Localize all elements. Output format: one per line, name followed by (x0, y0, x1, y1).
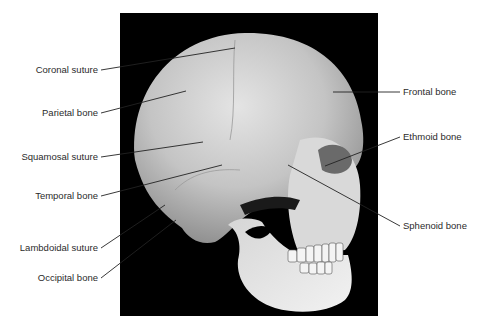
label-lambdoidal-suture: Lambdoidal suture (20, 242, 98, 253)
label-sphenoid-bone: Sphenoid bone (403, 220, 467, 231)
label-parietal-bone: Parietal bone (42, 107, 98, 118)
label-ethmoid-bone: Ethmoid bone (403, 131, 462, 142)
label-temporal-bone: Temporal bone (35, 190, 98, 201)
label-occipital-bone: Occipital bone (38, 272, 98, 283)
label-squamosal-suture: Squamosal suture (21, 151, 98, 162)
label-coronal-suture: Coronal suture (36, 64, 98, 75)
label-frontal-bone: Frontal bone (403, 86, 456, 97)
